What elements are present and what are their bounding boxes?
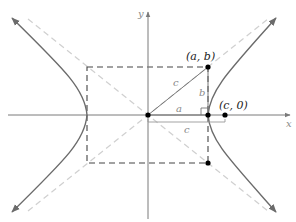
label-point-focus: (c, 0): [219, 99, 248, 112]
point-vertex: [205, 112, 210, 117]
label-point-ab: (a, b): [186, 50, 215, 63]
label-c-hypotenuse: c: [173, 77, 179, 88]
x-axis-label: x: [286, 118, 292, 129]
point-origin: [145, 112, 150, 117]
label-c-brace: c: [184, 124, 190, 135]
point-ab: [205, 64, 210, 69]
hyperbola-left-branch-lower: [12, 115, 87, 212]
c-brace: [148, 119, 225, 122]
point-focus: [222, 112, 227, 117]
label-b-vertical: b: [199, 87, 205, 98]
y-axis-label: y: [137, 8, 144, 19]
label-a-horizontal: a: [176, 103, 182, 114]
hyperbola-diagram: x y c b a c (a, b) (c, 0): [0, 0, 296, 222]
hyperbola-right-branch-lower: [208, 115, 276, 212]
hyperbola-left-branch-upper: [12, 18, 87, 115]
point-box-corner: [205, 160, 210, 165]
